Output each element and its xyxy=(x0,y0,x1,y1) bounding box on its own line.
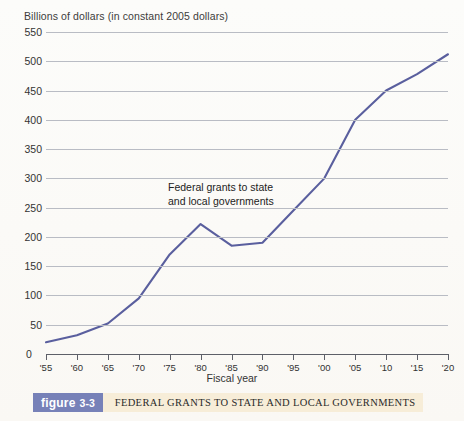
y-axis-tick-label: 300 xyxy=(6,172,42,184)
x-axis-tick xyxy=(293,354,294,360)
x-axis-tick xyxy=(324,354,325,360)
figure-caption-text: FEDERAL GRANTS TO STATE AND LOCAL GOVERN… xyxy=(115,397,416,408)
gridline xyxy=(46,149,448,150)
gridline xyxy=(46,61,448,62)
figure-number-badge: figure 3-3 xyxy=(33,393,103,412)
y-axis-tick-label: 550 xyxy=(6,26,42,38)
gridline xyxy=(46,120,448,121)
y-axis-tick-label: 450 xyxy=(6,85,42,97)
y-axis-tick-label: 400 xyxy=(6,114,42,126)
x-axis-title: Fiscal year xyxy=(0,372,464,384)
y-axis-tick-label: 500 xyxy=(6,55,42,67)
y-axis-tick-labels: 55050045040035030025020015010050 xyxy=(0,32,42,354)
x-axis-tick xyxy=(386,354,387,360)
gridline xyxy=(46,325,448,326)
x-axis-tick xyxy=(201,354,202,360)
figure-container: Billions of dollars (in constant 2005 do… xyxy=(0,0,464,421)
x-axis-tick xyxy=(355,354,356,360)
x-axis-tick xyxy=(262,354,263,360)
gridline xyxy=(46,237,448,238)
x-axis-tick xyxy=(417,354,418,360)
figure-badge-number: 3-3 xyxy=(80,397,95,409)
y-axis-tick-label: 200 xyxy=(6,231,42,243)
y-axis-zero-label: 0 xyxy=(26,348,32,360)
x-axis-tick xyxy=(139,354,140,360)
y-axis-title: Billions of dollars (in constant 2005 do… xyxy=(24,10,228,22)
x-axis-tick xyxy=(46,354,47,360)
figure-badge-word: figure xyxy=(41,396,76,410)
y-axis-tick-label: 350 xyxy=(6,143,42,155)
figure-caption-strip: FEDERAL GRANTS TO STATE AND LOCAL GOVERN… xyxy=(103,393,423,412)
gridline xyxy=(46,32,448,33)
y-axis-tick-label: 150 xyxy=(6,260,42,272)
x-axis-tick xyxy=(108,354,109,360)
x-axis-tick xyxy=(448,354,449,360)
y-axis-tick-label: 250 xyxy=(6,202,42,214)
series-annotation-label: Federal grants to state and local govern… xyxy=(168,180,274,208)
figure-caption-bar: figure 3-3 FEDERAL GRANTS TO STATE AND L… xyxy=(33,393,423,412)
gridline xyxy=(46,295,448,296)
gridline xyxy=(46,91,448,92)
x-axis-tick xyxy=(232,354,233,360)
x-axis-tick xyxy=(170,354,171,360)
y-axis-tick-label: 100 xyxy=(6,289,42,301)
y-axis-tick-label: 50 xyxy=(6,319,42,331)
x-axis-tick xyxy=(77,354,78,360)
gridline xyxy=(46,266,448,267)
